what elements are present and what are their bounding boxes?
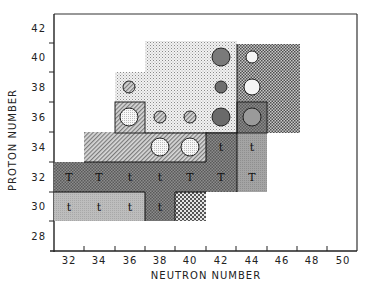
marker-circle <box>151 138 169 156</box>
y-axis-title: PROTON NUMBER <box>7 89 18 191</box>
x-tick-label: 32 <box>62 255 77 266</box>
x-tick-labels: 32 34 36 38 40 42 44 46 48 50 <box>62 255 351 266</box>
cell-letter: t <box>158 201 163 214</box>
marker-circle <box>244 79 260 95</box>
x-tick-label: 36 <box>123 255 138 266</box>
y-tick-label: 38 <box>31 82 46 93</box>
marker-circle <box>123 81 135 93</box>
x-tick-label: 38 <box>153 255 168 266</box>
cell-letter: t <box>219 141 224 154</box>
cell-letter: T <box>186 171 194 184</box>
x-tick-label: 40 <box>183 255 198 266</box>
x-tick-label: 34 <box>92 255 107 266</box>
cell-letter: T <box>248 171 256 184</box>
x-axis-title: NEUTRON NUMBER <box>151 270 261 281</box>
x-tick-label: 50 <box>336 255 351 266</box>
cell-letter: t <box>158 171 163 184</box>
x-ticks <box>84 246 327 251</box>
y-tick-label: 34 <box>31 142 46 153</box>
marker-circle <box>184 111 196 123</box>
y-tick-label: 28 <box>31 231 46 242</box>
cell-letter: T <box>95 171 103 184</box>
x-tick-label: 48 <box>305 255 320 266</box>
marker-circle <box>215 81 227 93</box>
nuclear-chart: T T t t T T T t t t t t t 28 30 32 34 36… <box>0 0 376 291</box>
y-tick-labels: 28 30 32 34 36 38 40 42 <box>31 23 46 242</box>
regions <box>54 41 300 221</box>
cell-letter: t <box>128 201 133 214</box>
marker-circle <box>181 138 199 156</box>
cell-letter: T <box>65 171 73 184</box>
cell-letter: t <box>97 201 102 214</box>
y-ticks <box>49 43 54 221</box>
y-tick-label: 30 <box>31 201 46 212</box>
y-tick-label: 40 <box>31 52 46 63</box>
marker-circle <box>154 111 166 123</box>
marker-circle <box>212 48 230 66</box>
y-tick-label: 42 <box>31 23 46 34</box>
x-tick-label: 46 <box>275 255 290 266</box>
marker-circle <box>120 108 138 126</box>
marker-circle <box>243 108 261 126</box>
cell-letter: t <box>67 201 72 214</box>
y-tick-label: 36 <box>31 112 46 123</box>
region-dark-checker-z32 <box>54 162 237 192</box>
marker-circle <box>212 108 230 126</box>
cell-letter: T <box>217 171 225 184</box>
region-checker-box-z30-n40 <box>175 192 206 221</box>
y-tick-label: 32 <box>31 172 46 183</box>
marker-circle <box>246 51 258 63</box>
x-tick-label: 44 <box>245 255 260 266</box>
x-tick-label: 42 <box>214 255 229 266</box>
cell-letter: t <box>250 141 255 154</box>
cell-letter: t <box>128 171 133 184</box>
